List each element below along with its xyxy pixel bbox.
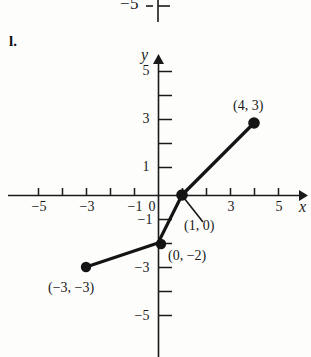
x-tick-label--3: −3 bbox=[76, 199, 98, 215]
data-point-marker bbox=[81, 262, 91, 272]
point-annotation-1-0: (1, 0) bbox=[184, 218, 214, 234]
data-point-marker bbox=[248, 117, 260, 129]
data-point-marker bbox=[156, 239, 166, 249]
coordinate-plot bbox=[0, 0, 311, 357]
point-annotation--3--3: (−3, −3) bbox=[48, 280, 94, 296]
x-tick-label-3: 3 bbox=[223, 199, 239, 215]
y-tick-label--5: −5 bbox=[130, 308, 154, 324]
data-point-marker bbox=[176, 189, 188, 201]
figure-panel: −5 l. bbox=[0, 0, 311, 357]
y-tick-label-1: 1 bbox=[138, 159, 154, 175]
y-tick-label--3: −3 bbox=[130, 260, 154, 276]
point-annotation-4-3: (4, 3) bbox=[233, 98, 263, 114]
y-axis-ticks bbox=[158, 72, 172, 316]
y-tick-label--1: −1 bbox=[133, 212, 157, 228]
y-tick-label-5: 5 bbox=[138, 63, 154, 79]
y-axis-label: y bbox=[141, 46, 148, 64]
x-tick-label--5: −5 bbox=[28, 199, 50, 215]
y-tick-label-3: 3 bbox=[138, 111, 154, 127]
x-axis-label: x bbox=[299, 198, 306, 216]
point-annotation-0--2: (0, −2) bbox=[168, 248, 206, 264]
cropped-axis-above bbox=[146, 0, 170, 22]
x-tick-label-5: 5 bbox=[271, 199, 287, 215]
